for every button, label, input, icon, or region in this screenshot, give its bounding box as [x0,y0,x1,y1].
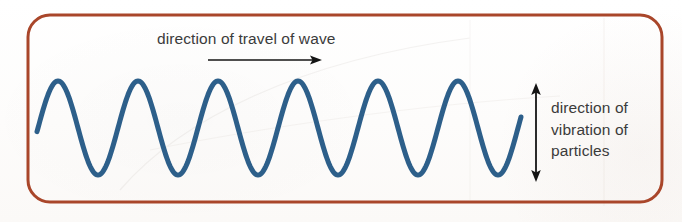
sine-wave-curve [37,81,521,175]
transverse-wave-figure: direction of travel of wave direction of… [0,0,682,222]
vibration-label-line-2: vibration of [551,119,661,141]
vibration-direction-label: direction of vibration of particles [551,97,661,162]
arrow-right-icon [208,56,322,65]
travel-direction-label: direction of travel of wave [157,28,335,50]
vibration-label-line-1: direction of [551,97,661,119]
vibration-label-line-3: particles [551,140,661,162]
